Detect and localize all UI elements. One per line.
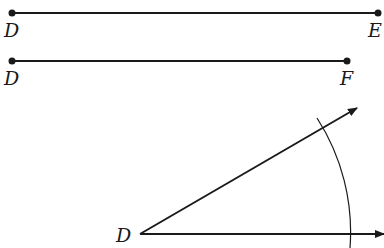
geometry-diagram: D E D F D [0,0,384,248]
angle-construction: D [115,108,384,248]
point-d-dot [9,10,16,17]
point-e-dot [375,10,382,17]
label-d-2: D [3,67,19,89]
compass-arc [317,118,351,248]
upper-ray [140,108,357,234]
label-d-1: D [3,19,19,41]
label-f: F [339,67,354,89]
point-f-dot [344,58,351,65]
segment-df: D F [3,58,354,90]
point-d-dot-2 [9,58,16,65]
label-vertex-d: D [115,224,131,246]
label-e: E [367,19,382,41]
segment-de: D E [3,10,382,42]
